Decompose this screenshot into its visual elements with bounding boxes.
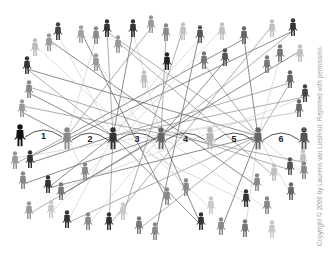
person-icon (26, 150, 35, 168)
connection-line (139, 136, 258, 229)
person-icon (11, 151, 20, 169)
connection-line (48, 136, 258, 188)
person-icon (276, 44, 285, 62)
person-icon (129, 19, 138, 37)
six-degrees-network: 123456 (0, 0, 333, 253)
person-icon (196, 25, 205, 43)
chain-step-label: 4 (183, 134, 188, 144)
person-icon (135, 216, 144, 234)
chain-step-label: 6 (278, 134, 283, 144)
person-icon (268, 220, 277, 238)
person-icon (77, 25, 86, 43)
person-icon (197, 212, 206, 230)
person-icon (253, 173, 262, 191)
person-icon (81, 162, 90, 180)
connection-line (161, 61, 225, 136)
person-icon (301, 84, 310, 102)
person-icon (263, 55, 272, 73)
person-icon (151, 222, 160, 240)
connection-line (29, 93, 113, 136)
person-icon (92, 26, 101, 44)
chain-people (15, 124, 310, 149)
chain-step-label: 5 (231, 134, 236, 144)
person-icon (286, 70, 295, 88)
person-icon (207, 196, 216, 214)
chain-step-label: 2 (87, 134, 92, 144)
person-icon (54, 22, 63, 40)
person-icon (200, 51, 209, 69)
person-icon (241, 219, 250, 237)
person-icon (300, 161, 309, 179)
copyright-credit: Copyright © 2006 by Laurens van Lieshout… (316, 45, 323, 246)
person-icon (31, 38, 40, 56)
person-icon (63, 210, 72, 228)
person-icon (57, 182, 66, 200)
person-icon (25, 80, 34, 98)
person-icon (163, 52, 172, 70)
connection-line (67, 39, 244, 136)
person-icon (147, 15, 156, 33)
person-icon (19, 171, 28, 189)
connection-line (118, 42, 274, 176)
person-icon (44, 175, 53, 193)
chain-person-icon (15, 124, 26, 146)
person-icon (268, 19, 277, 37)
person-icon (295, 99, 304, 117)
chain-step-label: 3 (134, 134, 139, 144)
person-icon (18, 99, 27, 117)
connection-line (123, 29, 183, 215)
connection-line (96, 60, 186, 191)
person-icon (287, 182, 296, 200)
person-icon (163, 187, 172, 205)
person-icon (217, 217, 226, 235)
chain-step-label: 1 (41, 131, 46, 141)
person-icon (263, 196, 272, 214)
connection-line (161, 31, 293, 136)
connection-line (109, 136, 113, 225)
person-icon (218, 22, 227, 40)
chain-person-icon (299, 127, 310, 149)
person-icon (25, 201, 34, 219)
